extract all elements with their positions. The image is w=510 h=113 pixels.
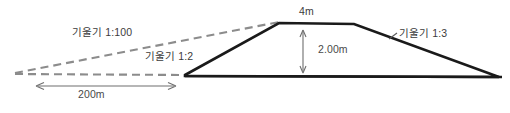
ground-baseline xyxy=(185,76,502,77)
dimension-height xyxy=(300,30,306,73)
label-embankment-height: 2.00m xyxy=(318,44,348,55)
embankment-drawing xyxy=(0,0,510,113)
dimension-200m xyxy=(36,83,176,90)
dashed-ground-extension-line xyxy=(15,74,186,75)
label-base-length: 200m xyxy=(78,89,105,100)
label-slope-1-2: 기울기 1:2 xyxy=(145,51,193,62)
diagram-canvas: 기울기 1:100 기울기 1:2 기울기 1:3 4m 2.00m 200m xyxy=(0,0,510,113)
label-slope-1-100: 기울기 1:100 xyxy=(72,27,132,38)
dashed-slope-1-100-line xyxy=(15,22,279,73)
label-crest-width: 4m xyxy=(299,6,314,17)
label-slope-1-3: 기울기 1:3 xyxy=(399,28,447,39)
